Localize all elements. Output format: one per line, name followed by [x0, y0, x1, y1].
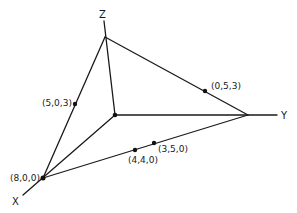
point-label-4-4-0: (4,4,0): [128, 155, 158, 165]
point-label-0-5-3: (0,5,3): [211, 81, 241, 91]
point-5-0-3: [73, 102, 77, 106]
point-label-3-5-0: (3,5,0): [158, 144, 188, 154]
point-4-4-0: [133, 148, 137, 152]
point-3-5-0: [152, 141, 156, 145]
x-axis-label: X: [12, 196, 19, 207]
origin-point: [113, 113, 118, 118]
edge-x-y: [43, 115, 248, 178]
point-label-8-0-0: (8,0,0): [10, 173, 40, 183]
x-axis: [23, 115, 115, 195]
coordinate-diagram: Z Y X (8,0,0) (5,0,3) (0,5,3) (4,4,0) (3…: [0, 0, 297, 213]
point-8-0-0: [41, 176, 46, 181]
z-axis: [104, 21, 115, 115]
edge-z-y: [105, 37, 248, 115]
z-axis-label: Z: [99, 9, 106, 20]
y-axis-label: Y: [280, 110, 288, 121]
point-label-5-0-3: (5,0,3): [42, 98, 72, 108]
point-0-5-3: [203, 89, 207, 93]
